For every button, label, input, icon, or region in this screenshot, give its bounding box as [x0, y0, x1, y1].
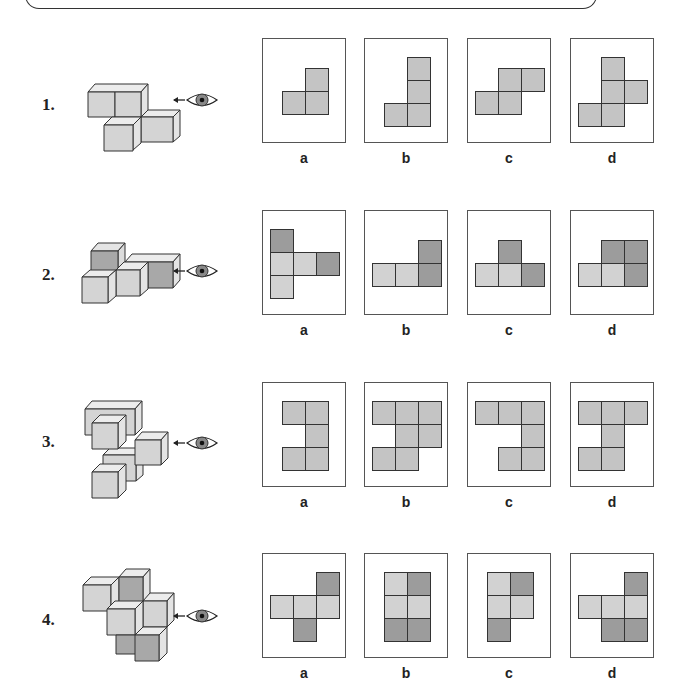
question-number-4: 4. — [42, 610, 55, 630]
grid-cell — [601, 57, 625, 81]
grid-cell — [407, 618, 431, 642]
option-label-2-d[interactable]: d — [570, 322, 654, 338]
grid-cell — [475, 91, 499, 115]
grid-cell — [407, 103, 431, 127]
grid-cell — [510, 595, 534, 619]
option-label-4-c[interactable]: c — [467, 665, 551, 681]
option-label-3-c[interactable]: c — [467, 494, 551, 510]
grid-cell — [498, 68, 522, 92]
option-box-1-b[interactable] — [364, 38, 448, 143]
eye-viewpoint-icon-3 — [172, 432, 222, 454]
option-box-2-a[interactable] — [262, 210, 346, 315]
option-label-4-b[interactable]: b — [364, 665, 448, 681]
grid-cell — [305, 401, 329, 425]
grid-cell — [601, 240, 625, 264]
option-label-1-a[interactable]: a — [262, 150, 346, 166]
option-box-1-a[interactable] — [262, 38, 346, 143]
grid-cell — [624, 240, 648, 264]
eye-viewpoint-icon-4 — [172, 605, 222, 627]
grid-cell — [316, 595, 340, 619]
grid-cell — [521, 263, 545, 287]
grid-cell — [624, 595, 648, 619]
grid-cell — [498, 91, 522, 115]
grid-cell — [293, 595, 317, 619]
grid-cell — [407, 595, 431, 619]
grid-cell — [372, 447, 396, 471]
grid-cell — [282, 447, 306, 471]
grid-cell — [270, 595, 294, 619]
grid-cell — [510, 572, 534, 596]
grid-cell — [601, 103, 625, 127]
option-label-2-b[interactable]: b — [364, 322, 448, 338]
option-label-1-c[interactable]: c — [467, 150, 551, 166]
grid-cell — [498, 240, 522, 264]
grid-cell — [407, 572, 431, 596]
grid-cell — [521, 68, 545, 92]
grid-cell — [270, 252, 294, 276]
grid-cell — [384, 595, 408, 619]
option-box-4-b[interactable] — [364, 553, 448, 658]
option-box-2-c[interactable] — [467, 210, 551, 315]
grid-cell — [578, 263, 602, 287]
grid-cell — [521, 447, 545, 471]
grid-cell — [293, 252, 317, 276]
option-box-1-d[interactable] — [570, 38, 654, 143]
eye-viewpoint-icon-1 — [172, 89, 222, 111]
grid-cell — [601, 80, 625, 104]
grid-cell — [395, 447, 419, 471]
option-label-3-b[interactable]: b — [364, 494, 448, 510]
grid-cell — [395, 424, 419, 448]
option-label-3-d[interactable]: d — [570, 494, 654, 510]
grid-cell — [270, 229, 294, 253]
grid-cell — [282, 91, 306, 115]
option-label-1-d[interactable]: d — [570, 150, 654, 166]
option-box-4-c[interactable] — [467, 553, 551, 658]
option-label-4-d[interactable]: d — [570, 665, 654, 681]
grid-cell — [282, 401, 306, 425]
option-label-4-a[interactable]: a — [262, 665, 346, 681]
grid-cell — [384, 103, 408, 127]
grid-cell — [498, 447, 522, 471]
option-box-2-d[interactable] — [570, 210, 654, 315]
grid-cell — [521, 401, 545, 425]
question-number-3: 3. — [42, 432, 55, 452]
option-box-3-c[interactable] — [467, 382, 551, 487]
grid-cell — [624, 618, 648, 642]
eye-viewpoint-icon-2 — [172, 260, 222, 282]
option-label-1-b[interactable]: b — [364, 150, 448, 166]
grid-cell — [384, 572, 408, 596]
grid-cell — [475, 401, 499, 425]
grid-cell — [624, 263, 648, 287]
grid-cell — [475, 263, 499, 287]
option-box-3-a[interactable] — [262, 382, 346, 487]
grid-cell — [395, 263, 419, 287]
page: 1. 2. 3. 4. — [0, 0, 682, 689]
grid-cell — [601, 447, 625, 471]
grid-cell — [578, 401, 602, 425]
grid-cell — [418, 240, 442, 264]
grid-cell — [305, 424, 329, 448]
grid-cell — [601, 424, 625, 448]
grid-cell — [498, 263, 522, 287]
option-box-3-d[interactable] — [570, 382, 654, 487]
grid-cell — [418, 401, 442, 425]
option-label-3-a[interactable]: a — [262, 494, 346, 510]
option-box-4-d[interactable] — [570, 553, 654, 658]
grid-cell — [372, 263, 396, 287]
grid-cell — [418, 263, 442, 287]
option-box-2-b[interactable] — [364, 210, 448, 315]
option-box-3-b[interactable] — [364, 382, 448, 487]
option-box-1-c[interactable] — [467, 38, 551, 143]
grid-cell — [316, 252, 340, 276]
option-label-2-c[interactable]: c — [467, 322, 551, 338]
grid-cell — [601, 618, 625, 642]
grid-cell — [305, 91, 329, 115]
option-label-2-a[interactable]: a — [262, 322, 346, 338]
grid-cell — [395, 401, 419, 425]
grid-cell — [270, 275, 294, 299]
option-box-4-a[interactable] — [262, 553, 346, 658]
grid-cell — [305, 68, 329, 92]
grid-cell — [316, 572, 340, 596]
grid-cell — [624, 572, 648, 596]
header-frame — [25, 0, 597, 9]
